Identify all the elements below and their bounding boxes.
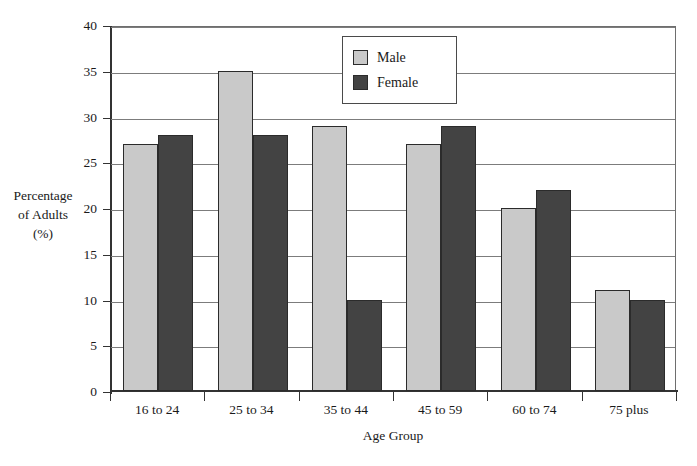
- x-tick-label: 75 plus: [582, 402, 676, 418]
- legend-label-female: Female: [377, 76, 418, 90]
- bar-male-75-plus: [595, 290, 630, 391]
- y-tick-label: 0: [64, 385, 97, 399]
- bar-male-25-to-34: [218, 71, 253, 391]
- x-tick-mark: [110, 392, 111, 401]
- x-tick-mark: [582, 392, 583, 401]
- y-tick-mark: [103, 72, 110, 73]
- bar-male-16-to-24: [123, 144, 158, 391]
- bar-male-60-to-74: [501, 208, 536, 391]
- legend-swatch-male-icon: [353, 50, 368, 65]
- y-tick-mark: [103, 346, 110, 347]
- bar-female-16-to-24: [158, 135, 193, 391]
- x-tick-label: 16 to 24: [110, 402, 204, 418]
- x-tick-label: 25 to 34: [204, 402, 298, 418]
- legend: Male Female: [342, 36, 457, 104]
- bar-female-35-to-44: [347, 300, 382, 392]
- x-tick-mark: [299, 392, 300, 401]
- x-tick-mark: [676, 392, 677, 401]
- bar-female-25-to-34: [253, 135, 288, 391]
- bar-female-75-plus: [630, 300, 665, 392]
- x-tick-label: 45 to 59: [393, 402, 487, 418]
- y-tick-mark: [103, 301, 110, 302]
- legend-swatch-female-icon: [353, 75, 368, 90]
- bar-chart: Percentage of Adults (%) 051015202530354…: [0, 0, 697, 466]
- bar-female-60-to-74: [536, 190, 571, 391]
- y-tick-mark: [103, 163, 110, 164]
- x-tick-label: 60 to 74: [487, 402, 581, 418]
- x-tick-label: 35 to 44: [299, 402, 393, 418]
- x-tick-mark: [204, 392, 205, 401]
- bar-female-45-to-59: [441, 126, 476, 391]
- y-tick-label: 20: [64, 202, 97, 216]
- y-tick-label: 30: [64, 111, 97, 125]
- x-axis-title: Age Group: [110, 428, 676, 444]
- x-tick-mark: [393, 392, 394, 401]
- legend-item-male[interactable]: Male: [353, 45, 456, 70]
- y-tick-label: 10: [64, 294, 97, 308]
- y-tick-label: 5: [64, 339, 97, 353]
- y-tick-mark: [103, 209, 110, 210]
- y-tick-label: 25: [64, 156, 97, 170]
- y-tick-mark: [103, 255, 110, 256]
- y-tick-label: 15: [64, 248, 97, 262]
- cropped-chart-title: [0, 0, 697, 5]
- y-tick-mark: [103, 26, 110, 27]
- y-tick-label: 35: [64, 65, 97, 79]
- x-tick-mark: [487, 392, 488, 401]
- bar-male-45-to-59: [406, 144, 441, 391]
- y-tick-label: 40: [64, 19, 97, 33]
- y-tick-mark: [103, 392, 110, 393]
- legend-item-female[interactable]: Female: [353, 70, 456, 95]
- bar-male-35-to-44: [312, 126, 347, 391]
- y-tick-mark: [103, 118, 110, 119]
- legend-label-male: Male: [377, 51, 406, 65]
- y-axis-title-line-3: (%): [0, 224, 86, 243]
